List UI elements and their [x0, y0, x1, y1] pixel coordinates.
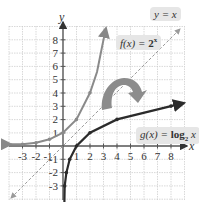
x-tick-label: 4 — [114, 150, 120, 162]
log-label: g(x) = log2 x — [136, 127, 199, 144]
y-tick-label: -3 — [49, 180, 59, 192]
y-axis-label: y — [58, 10, 65, 24]
identity-label: y = x — [150, 7, 181, 21]
y-tick-label: 2 — [53, 113, 59, 125]
y-tick-label: 6 — [53, 60, 59, 72]
exp-curve — [11, 28, 106, 144]
x-tick-label: 2 — [87, 150, 93, 162]
x-tick-label: -2 — [31, 150, 40, 162]
x-tick-label: 5 — [128, 150, 134, 162]
y-tick-label: 5 — [53, 73, 59, 85]
grid — [9, 26, 185, 200]
y-tick-label: 7 — [53, 47, 59, 59]
x-tick-label: -3 — [18, 150, 28, 162]
exp-label: f(x) = 2x — [116, 35, 161, 50]
y-tick-label: 4 — [53, 87, 59, 99]
x-tick-label: 8 — [168, 150, 174, 162]
y-tick-label: -2 — [49, 166, 58, 178]
x-tick-label: 3 — [101, 150, 107, 162]
y-tick-label: 8 — [53, 34, 59, 46]
x-tick-label: 6 — [141, 150, 147, 162]
x-tick-label: 7 — [155, 150, 161, 162]
log-curve — [64, 103, 184, 202]
y-tick-label: 3 — [53, 100, 59, 112]
graph-canvas: -3 -2 -1 1 2 3 4 5 6 7 8 8 7 6 5 4 3 2 1… — [0, 0, 199, 209]
reflection-arrow-icon — [102, 78, 147, 110]
